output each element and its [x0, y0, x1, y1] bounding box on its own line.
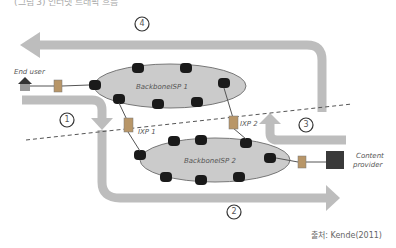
content-provider-label-1: Content	[356, 152, 384, 160]
backbone-isp-1-label: BackboneISP 1	[136, 83, 188, 91]
end-user-house-icon	[18, 77, 32, 91]
ixp2-server-icon	[229, 116, 238, 129]
content-provider-label-2: provider	[353, 161, 382, 169]
flow-number-4: 4	[139, 19, 144, 28]
ixp1-server-icon	[124, 118, 133, 132]
content-server-icon	[298, 156, 306, 168]
end-user-label: End user	[14, 68, 45, 76]
flow-number-3: 3	[303, 120, 308, 129]
backbone-isp-2-label: BackboneISP 2	[184, 157, 236, 165]
ixp2-label: IXP 2	[240, 120, 258, 128]
flow-number-1: 1	[64, 115, 69, 124]
source-citation: 출처: Kende(2011)	[311, 229, 382, 240]
end-user-server-icon	[54, 80, 62, 92]
flow-number-2: 2	[231, 207, 236, 216]
content-provider-image-icon	[326, 151, 344, 169]
ixp1-label: IXP 1	[138, 128, 156, 136]
network-diagram	[0, 0, 396, 248]
